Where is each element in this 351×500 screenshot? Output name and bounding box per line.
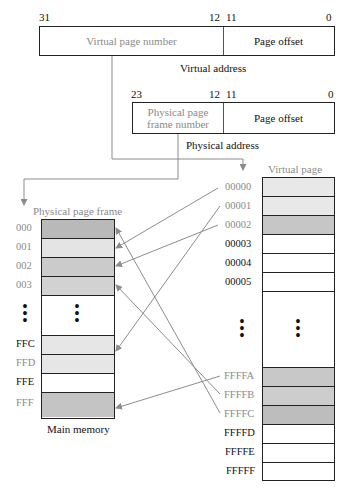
frame-row-003 — [42, 277, 114, 296]
vpage-row-FFFFE — [263, 444, 334, 463]
vpage-label: 00003 — [225, 238, 251, 249]
va-offset-field: Page offset — [224, 27, 333, 54]
frame-row-FFC — [42, 336, 114, 355]
pa-bit-12: 12 — [209, 88, 220, 100]
vpage-row-00004 — [263, 254, 334, 273]
vpage-label: FFFFE — [225, 446, 255, 457]
vpage-label: FFFFC — [224, 408, 254, 419]
vpage-row-FFFFA — [263, 368, 334, 387]
frame-stack-ellipsis: ••• — [72, 303, 82, 324]
vpage-row-FFFFC — [263, 406, 334, 425]
frame-label-ellipsis: ••• — [20, 303, 30, 324]
vpage-label: 00004 — [225, 257, 251, 268]
frame-row-FFE — [42, 374, 114, 393]
vpage-label: 00002 — [225, 219, 251, 230]
frame-label: FFD — [16, 357, 35, 368]
frame-label: FFE — [16, 376, 34, 387]
map-FFFFB-003 — [116, 285, 220, 394]
map-00001-FFD — [116, 206, 220, 351]
pa-offset-field: Page offset — [224, 103, 333, 132]
va-bit-31: 31 — [39, 11, 50, 23]
map-FFFFC-000 — [116, 228, 220, 413]
frame-row-001 — [42, 239, 114, 258]
virtual-page-title: Virtual page — [268, 163, 322, 175]
vpage-label: 00005 — [225, 276, 251, 287]
map-FFFFA-FFF — [116, 376, 220, 408]
frame-row-FFF — [42, 393, 114, 417]
frame-row-000 — [42, 220, 114, 239]
vpage-label: FFFFB — [224, 389, 254, 400]
vpage-row-00000 — [263, 178, 334, 197]
vpage-row-FFFFB — [263, 387, 334, 406]
pa-frame-number-line2: frame number — [147, 118, 209, 130]
vpage-row-FFFFD — [263, 425, 334, 444]
pa-register: Physical page frame number Page offset — [132, 102, 335, 134]
vpage-stack-ellipsis: ••• — [293, 318, 303, 339]
pa-frame-number-field: Physical page frame number — [133, 103, 223, 132]
vpage-row-00003 — [263, 235, 334, 254]
va-bit-0: 0 — [326, 11, 332, 23]
va-bit-11: 11 — [226, 11, 237, 23]
main-memory-caption: Main memory — [47, 423, 110, 435]
pa-bit-0: 0 — [328, 88, 334, 100]
va-register: Virtual page number Page offset — [39, 26, 335, 56]
vpage-row-00005 — [263, 273, 334, 292]
vpage-label: FFFFF — [226, 465, 255, 476]
frame-row-002 — [42, 258, 114, 277]
vpage-row-00001 — [263, 197, 334, 216]
pfn-to-frame-arrow — [24, 134, 178, 205]
vpage-label: FFFFD — [224, 427, 255, 438]
pa-bit-11: 11 — [226, 88, 237, 100]
va-page-number-field: Virtual page number — [40, 27, 223, 54]
pa-frame-number-line1: Physical page — [148, 106, 209, 118]
vpage-row-FFFFF — [263, 463, 334, 480]
vpage-row-00002 — [263, 216, 334, 235]
frame-label: FFC — [16, 338, 35, 349]
physical-frame-title: Physical page frame — [33, 205, 122, 217]
frame-label: FFF — [16, 397, 34, 408]
pa-bit-23: 23 — [131, 88, 142, 100]
frame-label: 001 — [16, 241, 32, 252]
map-00002-002 — [116, 225, 218, 266]
map-00000-001 — [116, 188, 218, 248]
vpage-label: 00001 — [225, 200, 251, 211]
vpage-label: FFFFA — [224, 370, 254, 381]
va-caption: Virtual address — [180, 62, 246, 74]
vpage-label: 00000 — [225, 181, 251, 192]
frame-label: 002 — [16, 260, 32, 271]
frame-label: 000 — [16, 222, 32, 233]
va-bit-12: 12 — [209, 11, 220, 23]
frame-label: 003 — [16, 279, 32, 290]
frame-row-FFD — [42, 355, 114, 374]
vpage-label-ellipsis: ••• — [237, 318, 247, 339]
pa-caption: Physical address — [186, 139, 259, 151]
